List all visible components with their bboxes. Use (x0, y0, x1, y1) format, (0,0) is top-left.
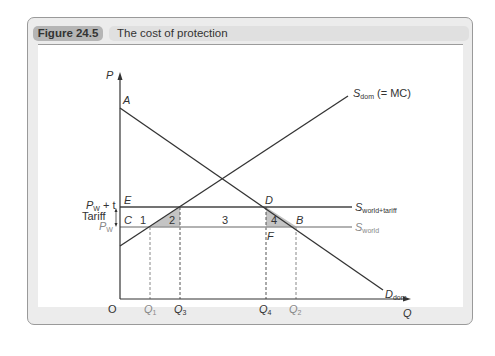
point-f-label: F (267, 230, 275, 242)
area-3-label: 3 (222, 214, 228, 226)
point-c-label: C (124, 214, 132, 226)
q3-label: Q3 (174, 303, 187, 316)
s-world-tariff-label: Sworld+tariff (355, 201, 397, 214)
demand-curve (120, 108, 383, 290)
s-world-label: Sworld (355, 221, 379, 234)
point-d-label: D (265, 194, 273, 206)
tariff-arrow-down-icon (115, 223, 118, 227)
y-axis-arrow-icon (118, 72, 123, 80)
area-4-label: 4 (271, 214, 277, 226)
x-axis-label: Q (403, 307, 412, 319)
supply-curve (120, 96, 348, 246)
economics-diagram: P Q O A E C D B F 1 2 3 4 PW + t Tariff … (0, 0, 495, 356)
origin-label: O (108, 303, 117, 315)
q4-label: Q4 (259, 303, 272, 316)
q1-label: Q1 (144, 303, 157, 316)
area-1-label: 1 (140, 214, 146, 226)
area-2-label: 2 (169, 214, 175, 226)
q2-label: Q2 (289, 303, 302, 316)
d-dom-label: Ddom (385, 288, 407, 301)
s-dom-label: Sdom (= MC) (353, 87, 411, 100)
y-axis-label: P (106, 69, 114, 81)
point-a-label: A (122, 94, 130, 106)
pw-label: PW (99, 220, 113, 233)
point-b-label: B (296, 214, 303, 226)
point-e-label: E (124, 194, 132, 206)
